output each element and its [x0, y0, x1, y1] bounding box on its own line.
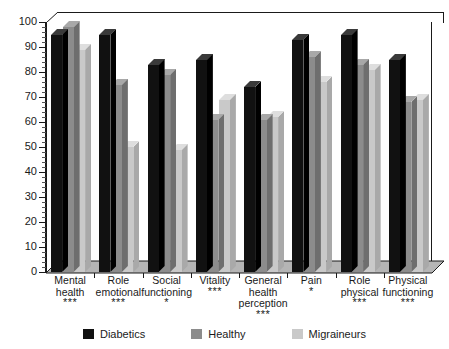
y-tick-label-wrap: 80: [0, 72, 37, 73]
plot-area: [46, 22, 432, 272]
y-tick-minor: [42, 132, 46, 133]
y-tick-label: 100: [3, 16, 37, 27]
y-tick-minor: [42, 237, 46, 238]
y-tick-minor: [42, 142, 46, 143]
y-tick-minor: [42, 62, 46, 63]
y-tick-minor: [42, 262, 46, 263]
y-tick-minor: [42, 117, 46, 118]
y-tick-major: [39, 147, 46, 148]
chart-legend: DiabeticsHealthyMigraineurs: [0, 325, 449, 343]
legend-label: Migraineurs: [309, 328, 366, 340]
y-tick-label: 40: [3, 166, 37, 177]
y-tick-minor: [42, 42, 46, 43]
y-tick-minor: [42, 87, 46, 88]
y-tick-major: [39, 122, 46, 123]
y-tick-major: [39, 97, 46, 98]
y-tick-minor: [42, 112, 46, 113]
y-tick-label-wrap: 0: [0, 272, 37, 273]
x-axis-label-physical-functioning: Physicalfunctioning***: [379, 275, 437, 307]
y-tick-label: 30: [3, 191, 37, 202]
y-tick-minor: [42, 27, 46, 28]
significance-marker: ***: [379, 298, 437, 307]
y-tick-label: 80: [3, 66, 37, 77]
y-tick-minor: [42, 107, 46, 108]
legend-item-healthy[interactable]: Healthy: [191, 328, 245, 340]
significance-marker: ***: [234, 310, 292, 319]
y-tick-minor: [42, 57, 46, 58]
y-tick-major: [39, 22, 46, 23]
y-tick-label-wrap: 50: [0, 147, 37, 148]
y-tick-label-wrap: 30: [0, 197, 37, 198]
y-tick-label-wrap: 40: [0, 172, 37, 173]
significance-marker: *: [138, 298, 196, 307]
y-tick-label-wrap: 60: [0, 122, 37, 123]
legend-swatch-icon: [292, 329, 303, 339]
y-tick-minor: [42, 32, 46, 33]
y-tick-minor: [42, 242, 46, 243]
legend-swatch-icon: [191, 329, 202, 339]
y-tick-label: 20: [3, 216, 37, 227]
y-tick-label-wrap: 10: [0, 247, 37, 248]
y-tick-minor: [42, 52, 46, 53]
y-tick-major: [39, 47, 46, 48]
x-axis-label-line: Physical: [379, 275, 437, 287]
y-tick-minor: [42, 102, 46, 103]
y-tick-minor: [42, 182, 46, 183]
y-tick-minor: [42, 82, 46, 83]
y-tick-minor: [42, 267, 46, 268]
y-tick-label-wrap: 20: [0, 222, 37, 223]
y-tick-label-wrap: 70: [0, 97, 37, 98]
y-tick-major: [39, 197, 46, 198]
y-tick-minor: [42, 187, 46, 188]
y-tick-label-wrap: 100: [0, 22, 37, 23]
y-tick-minor: [42, 162, 46, 163]
y-tick-minor: [42, 77, 46, 78]
y-tick-minor: [42, 217, 46, 218]
y-tick-minor: [42, 257, 46, 258]
y-tick-major: [39, 247, 46, 248]
x-axis-labels: Mentalhealth***Roleemotional***Socialfun…: [46, 275, 444, 321]
y-tick-minor: [42, 252, 46, 253]
legend-swatch-icon: [83, 329, 94, 339]
y-tick-minor: [42, 207, 46, 208]
y-tick-minor: [42, 167, 46, 168]
legend-item-migraineurs[interactable]: Migraineurs: [292, 328, 366, 340]
y-tick-minor: [42, 67, 46, 68]
y-tick-major: [39, 172, 46, 173]
y-tick-minor: [42, 212, 46, 213]
y-tick-minor: [42, 157, 46, 158]
y-tick-label: 60: [3, 116, 37, 127]
y-tick-minor: [42, 227, 46, 228]
y-tick-minor: [42, 137, 46, 138]
y-tick-label-wrap: 90: [0, 47, 37, 48]
y-tick-major: [39, 222, 46, 223]
legend-item-diabetics[interactable]: Diabetics: [83, 328, 145, 340]
y-tick-minor: [42, 37, 46, 38]
y-tick-minor: [42, 177, 46, 178]
y-tick-minor: [42, 232, 46, 233]
legend-label: Diabetics: [100, 328, 145, 340]
y-tick-minor: [42, 192, 46, 193]
y-tick-major: [39, 72, 46, 73]
y-tick-label: 50: [3, 141, 37, 152]
y-tick-minor: [42, 127, 46, 128]
plot-floor-3d: [46, 260, 444, 273]
y-tick-label: 0: [3, 266, 37, 277]
y-tick-label: 70: [3, 91, 37, 102]
y-tick-major: [39, 272, 46, 273]
chart-container: 0102030405060708090100 Mentalhealth***Ro…: [0, 0, 449, 349]
y-tick-minor: [42, 92, 46, 93]
y-tick-label: 90: [3, 41, 37, 52]
y-tick-minor: [42, 202, 46, 203]
y-tick-minor: [42, 152, 46, 153]
y-tick-label: 10: [3, 241, 37, 252]
legend-label: Healthy: [208, 328, 245, 340]
